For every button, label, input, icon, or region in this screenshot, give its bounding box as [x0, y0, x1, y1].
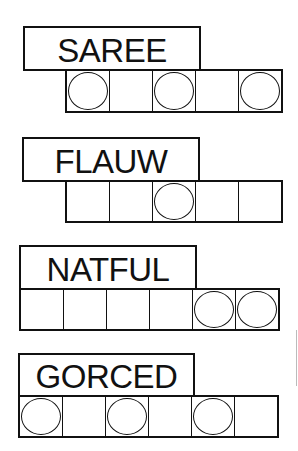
answer-cell-circled[interactable] [67, 71, 110, 111]
answer-cell[interactable] [239, 182, 281, 221]
answer-cell-circled[interactable] [236, 290, 278, 329]
scrambled-word-label: FLAUW [22, 137, 200, 182]
answer-cell[interactable] [235, 397, 277, 436]
answer-cells [65, 69, 283, 113]
answer-cell-circled[interactable] [239, 71, 281, 111]
scan-edge-line [296, 330, 297, 386]
answer-cells [18, 395, 279, 438]
answer-cell-circled[interactable] [106, 397, 149, 436]
answer-cell[interactable] [63, 397, 106, 436]
answer-cell-circled[interactable] [192, 397, 235, 436]
answer-cell[interactable] [67, 182, 110, 221]
answer-cell[interactable] [107, 290, 150, 329]
scrambled-word-label: SAREE [23, 26, 201, 71]
scrambled-word-text: GORCED [36, 357, 178, 393]
answer-cell[interactable] [110, 71, 153, 111]
answer-cell-circled[interactable] [153, 71, 196, 111]
answer-cell-circled[interactable] [20, 397, 63, 436]
answer-cell[interactable] [21, 290, 64, 329]
scrambled-word-text: SAREE [57, 31, 166, 67]
scrambled-word-text: NATFUL [47, 250, 170, 286]
answer-cell-circled[interactable] [193, 290, 236, 329]
scrambled-word-label: GORCED [18, 353, 195, 397]
answer-cells [19, 288, 280, 331]
answer-cell[interactable] [110, 182, 153, 221]
answer-cell[interactable] [196, 182, 239, 221]
answer-cell[interactable] [149, 397, 192, 436]
answer-cell[interactable] [64, 290, 107, 329]
scrambled-word-label: NATFUL [19, 245, 197, 290]
scrambled-word-text: FLAUW [55, 142, 168, 178]
answer-cell[interactable] [150, 290, 193, 329]
answer-cell-circled[interactable] [153, 182, 196, 221]
answer-cell[interactable] [196, 71, 239, 111]
answer-cells [65, 180, 283, 223]
